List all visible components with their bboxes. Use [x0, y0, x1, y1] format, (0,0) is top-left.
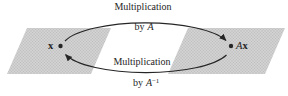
point-x-dot [58, 44, 62, 48]
point-ax-label: Ax [236, 40, 248, 51]
figure-canvas: Multiplication byA Multiplication byA−1 … [0, 0, 288, 96]
forward-arrow-label-line2: byA [134, 22, 153, 33]
point-x-label: x [48, 40, 53, 51]
point-ax-dot [229, 44, 233, 48]
inverse-arrow-label-line1: Multiplication [113, 57, 170, 68]
forward-arrow-label-line1: Multiplication [114, 2, 171, 13]
point-ax-vector: x [242, 40, 247, 51]
forward-by-text: by [134, 21, 144, 32]
forward-operator-symbol: A [147, 21, 153, 32]
inverse-exponent: −1 [152, 77, 159, 85]
inverse-arrow-label-line2: byA−1 [133, 78, 159, 89]
right-plane [168, 28, 285, 74]
inverse-by-text: by [133, 77, 143, 88]
